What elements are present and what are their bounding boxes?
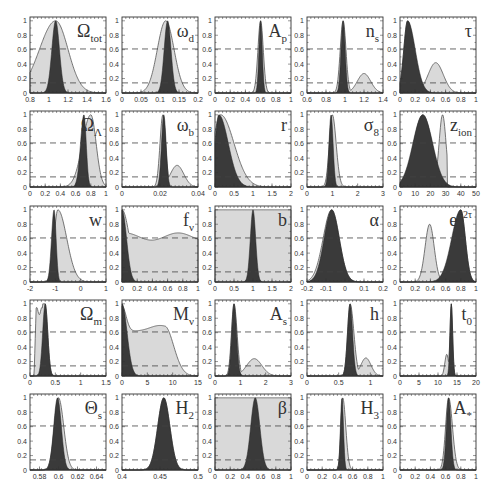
x-tick-label: 0.6 [441, 473, 451, 480]
x-tick-label: 0.4 [426, 473, 436, 480]
x-tick-label: 0 [213, 190, 217, 197]
x-tick-label: 0.8 [271, 473, 281, 480]
x-tick-label: 1.4 [378, 96, 388, 103]
x-tick-label: 0.2 [410, 285, 420, 292]
x-tick-label: 0 [398, 473, 402, 480]
y-tick-label: 0.2 [109, 452, 119, 459]
y-tick-label: 0.2 [109, 169, 119, 176]
panel-z_ion: 00.20.40.60.8101020304050zion [387, 111, 480, 197]
panel-w: 00.20.40.60.81-2-101w [17, 206, 108, 292]
parameter-label: r [281, 115, 287, 135]
parameter-label: α [370, 210, 380, 230]
y-tick-label: 1 [393, 394, 397, 401]
y-tick-label: 1 [23, 111, 27, 118]
x-tick-label: 0.4 [241, 96, 251, 103]
x-tick-label: 0.2 [225, 473, 235, 480]
y-tick-label: 0.4 [202, 250, 212, 257]
y-tick-label: 0.2 [17, 264, 27, 271]
y-tick-label: 1 [23, 300, 27, 307]
y-tick-label: 1 [115, 300, 119, 307]
x-tick-label: 1 [196, 285, 200, 292]
x-tick-label: 0.2 [225, 96, 235, 103]
y-tick-label: 0.4 [294, 250, 304, 257]
x-tick-label: 50 [472, 190, 480, 197]
x-tick-label: 0.5 [229, 285, 239, 292]
x-tick-label: 0 [213, 473, 217, 480]
y-tick-label: 0.4 [387, 250, 397, 257]
x-tick-label: 0.6 [163, 285, 173, 292]
x-tick-label: 1 [289, 473, 293, 480]
x-tick-label: 1 [474, 96, 478, 103]
y-tick-label: 0 [393, 184, 397, 191]
x-tick-label: 3 [381, 190, 385, 197]
x-tick-label: 0.6 [441, 96, 451, 103]
y-tick-label: 0.8 [387, 126, 397, 133]
y-tick-label: 0 [208, 184, 212, 191]
x-tick-label: 1 [251, 190, 255, 197]
x-tick-label: 3 [289, 379, 293, 386]
y-tick-label: 0.8 [387, 32, 397, 39]
x-tick-label: 0 [398, 285, 402, 292]
x-tick-label: 1 [474, 285, 478, 292]
x-tick-label: 0 [398, 379, 402, 386]
y-tick-label: 0.4 [387, 61, 397, 68]
x-tick-label: 1.5 [267, 285, 277, 292]
y-tick-label: 0.8 [387, 221, 397, 228]
x-tick-label: 0.1 [155, 96, 165, 103]
x-tick-label: 1.6 [101, 96, 111, 103]
y-tick-label: 0.8 [202, 221, 212, 228]
y-tick-label: 0.2 [17, 75, 27, 82]
y-tick-label: 0 [23, 373, 27, 380]
x-tick-label: 0.64 [90, 473, 104, 480]
likelihood-panel-grid: 00.20.40.60.810.811.21.41.6Ωtot00.20.40.… [0, 0, 492, 482]
panel-A_s: 00.20.40.60.810123As [202, 300, 293, 386]
x-tick-label: 0.5 [50, 379, 60, 386]
x-tick-label: 15 [194, 379, 202, 386]
y-tick-label: 0.8 [294, 409, 304, 416]
panel-n_s: 00.20.40.60.810.60.811.21.4ns [294, 17, 388, 103]
y-tick-label: 0.6 [202, 140, 212, 147]
x-tick-label: 0.2 [317, 473, 327, 480]
x-tick-label: 0.2 [410, 473, 420, 480]
x-tick-label: 0 [398, 190, 402, 197]
parameter-label: β [278, 398, 287, 418]
y-tick-label: 0.8 [294, 126, 304, 133]
y-tick-label: 1 [300, 206, 304, 213]
x-tick-label: 0.6 [302, 96, 312, 103]
x-tick-label: 0 [120, 190, 124, 197]
x-tick-label: 0 [120, 379, 124, 386]
panel-A_p: 00.20.40.60.8100.20.40.60.81Ap [202, 17, 293, 103]
panel-sigma_8: 00.20.40.60.810123σ8 [294, 111, 385, 197]
y-tick-label: 0.8 [202, 126, 212, 133]
panel-f_nu: 00.20.40.60.8100.20.40.60.81fν [109, 206, 200, 292]
x-tick-label: 0.4 [148, 285, 158, 292]
y-tick-label: 0 [300, 184, 304, 191]
y-tick-label: 0.6 [109, 423, 119, 430]
x-tick-label: 1 [104, 285, 108, 292]
x-tick-label: 0.8 [321, 96, 331, 103]
y-tick-label: 0.2 [17, 452, 27, 459]
y-tick-label: 1 [393, 206, 397, 213]
x-tick-label: 1.2 [359, 96, 369, 103]
y-tick-label: 1 [23, 17, 27, 24]
y-tick-label: 0.4 [387, 438, 397, 445]
x-tick-label: 0.4 [426, 96, 436, 103]
x-tick-label: 30 [442, 190, 450, 197]
x-tick-label: 0.8 [456, 285, 466, 292]
x-tick-label: 2 [264, 379, 268, 386]
x-tick-label: 0.5 [193, 473, 203, 480]
x-tick-label: 0 [305, 379, 309, 386]
y-tick-label: 0 [393, 467, 397, 474]
y-tick-label: 1 [115, 394, 119, 401]
x-tick-label: 0.8 [456, 96, 466, 103]
y-tick-label: 0.6 [17, 329, 27, 336]
panel-h: 00.20.40.60.8100.51h [294, 300, 383, 386]
x-tick-label: 0.4 [426, 285, 436, 292]
y-tick-label: 0.8 [294, 315, 304, 322]
y-tick-label: 0 [23, 467, 27, 474]
y-tick-label: 1 [208, 17, 212, 24]
x-tick-label: 10 [434, 379, 442, 386]
y-tick-label: 0.2 [387, 169, 397, 176]
y-tick-label: 0.8 [109, 32, 119, 39]
y-tick-label: 0.8 [202, 409, 212, 416]
